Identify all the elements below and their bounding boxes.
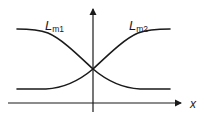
label-lm1: Lm1 [45,18,64,34]
x-axis-label: x [189,97,197,111]
diagram-canvas: Lm1 Lm2 x [0,0,204,115]
label-lm2: Lm2 [129,18,148,34]
